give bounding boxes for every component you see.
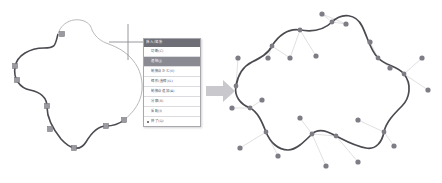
illustration-stage: 挿入/編集 切断(C) 連結(J) 制御点かど(V) 線形(直線)(L) 制御点… bbox=[0, 0, 442, 183]
anchor-point[interactable] bbox=[334, 134, 339, 139]
anchor-point[interactable] bbox=[298, 28, 303, 33]
control-point[interactable] bbox=[265, 55, 270, 60]
anchor-point[interactable] bbox=[310, 132, 315, 137]
control-point[interactable] bbox=[235, 55, 240, 60]
menu-item-label: 切断(C) bbox=[151, 50, 163, 53]
control-point[interactable] bbox=[387, 65, 392, 70]
control-point[interactable] bbox=[367, 39, 372, 44]
control-point[interactable] bbox=[229, 105, 234, 110]
crosshair-cursor bbox=[109, 24, 147, 60]
control-point[interactable] bbox=[287, 55, 292, 60]
control-point[interactable] bbox=[297, 115, 302, 120]
context-menu-title-label: 挿入/編集 bbox=[146, 41, 163, 44]
context-menu-title: 挿入/編集 bbox=[144, 39, 200, 47]
node-handle[interactable] bbox=[122, 118, 127, 123]
bezier-points[interactable] bbox=[229, 11, 430, 168]
menu-item-2[interactable]: 制御点かど(V) bbox=[144, 67, 200, 77]
control-point[interactable] bbox=[343, 21, 348, 26]
node-handle[interactable] bbox=[15, 78, 20, 83]
menu-item-0[interactable]: 切断(C) bbox=[144, 47, 200, 57]
right-panel-after bbox=[228, 0, 442, 183]
control-point[interactable] bbox=[319, 11, 324, 16]
node-handle[interactable] bbox=[48, 127, 53, 132]
menu-item-3[interactable]: 線形(直線)(L) bbox=[144, 77, 200, 87]
menu-item-label: 終了(Q) bbox=[151, 120, 164, 123]
menu-item-6[interactable]: 反転(I) bbox=[144, 107, 200, 117]
menu-item-4[interactable]: 制御点追加(A) bbox=[144, 87, 200, 97]
node-handle[interactable] bbox=[72, 146, 77, 151]
right-shape-canvas bbox=[228, 0, 442, 183]
anchor-point[interactable] bbox=[264, 130, 269, 135]
context-menu[interactable]: 挿入/編集 切断(C) 連結(J) 制御点かど(V) 線形(直線)(L) 制御点… bbox=[143, 38, 201, 127]
anchor-point[interactable] bbox=[376, 56, 381, 61]
control-point[interactable] bbox=[323, 163, 328, 168]
menu-item-label: 制御点追加(A) bbox=[151, 90, 174, 93]
menu-item-5[interactable]: 分解(X) bbox=[144, 97, 200, 107]
node-handle[interactable] bbox=[13, 64, 18, 69]
menu-item-label: 反転(I) bbox=[151, 110, 162, 113]
path-dark-segment bbox=[15, 34, 124, 148]
control-point[interactable] bbox=[275, 153, 280, 158]
menu-item-label: 連結(J) bbox=[151, 60, 162, 63]
handle-lines bbox=[232, 14, 428, 166]
menu-item-label: 制御点かど(V) bbox=[151, 70, 174, 73]
control-point[interactable] bbox=[355, 159, 360, 164]
menu-item-1[interactable]: 連結(J) bbox=[144, 57, 200, 67]
menu-item-label: 線形(直線)(L) bbox=[151, 80, 173, 83]
anchor-point[interactable] bbox=[234, 84, 239, 89]
node-handle[interactable] bbox=[60, 32, 65, 37]
anchor-point[interactable] bbox=[402, 72, 407, 77]
control-point[interactable] bbox=[391, 143, 396, 148]
control-point[interactable] bbox=[355, 117, 360, 122]
path-light-segment bbox=[92, 30, 142, 120]
control-point[interactable] bbox=[313, 53, 318, 58]
anchor-point[interactable] bbox=[270, 44, 275, 49]
anchor-point[interactable] bbox=[248, 106, 253, 111]
control-point[interactable] bbox=[425, 87, 430, 92]
node-handle[interactable] bbox=[104, 124, 109, 129]
radio-bullet-icon bbox=[147, 121, 149, 123]
anchor-point[interactable] bbox=[382, 130, 387, 135]
control-point[interactable] bbox=[419, 55, 424, 60]
menu-item-label: 分解(X) bbox=[151, 100, 163, 103]
control-point[interactable] bbox=[259, 97, 264, 102]
anchor-point[interactable] bbox=[330, 20, 335, 25]
control-point[interactable] bbox=[237, 145, 242, 150]
menu-item-7[interactable]: 終了(Q) bbox=[144, 117, 200, 126]
context-menu-list: 切断(C) 連結(J) 制御点かど(V) 線形(直線)(L) 制御点追加(A) … bbox=[144, 47, 200, 126]
node-handle[interactable] bbox=[45, 104, 50, 109]
